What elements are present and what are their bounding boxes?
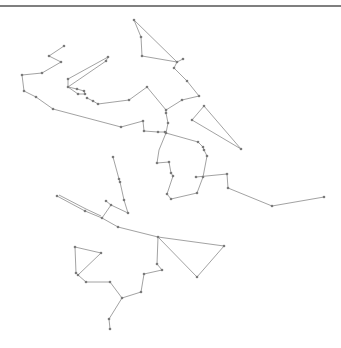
node-point bbox=[74, 246, 77, 249]
node-point bbox=[77, 93, 80, 96]
edges-group bbox=[22, 20, 324, 329]
node-point bbox=[227, 187, 230, 190]
edge-path bbox=[87, 87, 168, 133]
node-point bbox=[52, 108, 55, 111]
node-point bbox=[203, 105, 206, 108]
node-point bbox=[198, 95, 201, 98]
node-point bbox=[196, 192, 199, 195]
node-point bbox=[197, 141, 200, 144]
node-point bbox=[271, 205, 274, 208]
node-point bbox=[107, 56, 110, 59]
node-point bbox=[105, 200, 108, 203]
nodes-group bbox=[21, 19, 326, 331]
node-point bbox=[186, 80, 189, 83]
node-point bbox=[75, 272, 78, 275]
node-point bbox=[182, 58, 185, 61]
edge-path bbox=[134, 20, 177, 62]
node-point bbox=[196, 276, 199, 279]
node-point bbox=[240, 148, 243, 151]
node-point bbox=[140, 291, 143, 294]
node-point bbox=[119, 181, 122, 184]
edge-path bbox=[75, 218, 224, 298]
node-point bbox=[156, 162, 159, 165]
node-point bbox=[77, 274, 80, 277]
edge-path bbox=[166, 62, 199, 110]
node-point bbox=[109, 281, 112, 284]
node-point bbox=[165, 132, 168, 135]
node-point bbox=[35, 96, 38, 99]
edge-path bbox=[68, 57, 108, 87]
node-point bbox=[121, 297, 124, 300]
node-point bbox=[21, 74, 24, 77]
node-point bbox=[85, 281, 88, 284]
node-point bbox=[176, 61, 179, 64]
node-point bbox=[109, 328, 112, 331]
node-point bbox=[141, 55, 144, 58]
node-point bbox=[108, 318, 111, 321]
node-point bbox=[76, 88, 79, 91]
node-point bbox=[143, 273, 146, 276]
node-point bbox=[191, 119, 194, 122]
node-point bbox=[203, 149, 206, 152]
node-point bbox=[117, 226, 120, 229]
node-point bbox=[23, 90, 26, 93]
node-point bbox=[157, 236, 160, 239]
node-point bbox=[156, 263, 159, 266]
node-point bbox=[170, 198, 173, 201]
edge-path bbox=[106, 157, 128, 213]
node-point bbox=[67, 86, 70, 89]
node-point bbox=[84, 210, 87, 213]
node-point bbox=[41, 72, 44, 75]
node-point bbox=[120, 126, 123, 129]
node-point bbox=[165, 112, 168, 115]
node-point bbox=[133, 19, 136, 22]
node-point bbox=[226, 173, 229, 176]
node-point bbox=[206, 155, 209, 158]
node-point bbox=[48, 55, 51, 58]
node-point bbox=[63, 45, 66, 48]
edge-path bbox=[196, 174, 324, 206]
node-point bbox=[168, 161, 171, 164]
node-point bbox=[202, 146, 205, 149]
node-point bbox=[127, 212, 130, 215]
node-point bbox=[67, 78, 70, 81]
node-point bbox=[142, 120, 145, 123]
node-point bbox=[223, 245, 226, 248]
node-point bbox=[157, 131, 160, 134]
node-point bbox=[60, 61, 63, 64]
node-point bbox=[165, 109, 168, 112]
node-point bbox=[105, 60, 108, 63]
node-point bbox=[323, 196, 326, 199]
node-point bbox=[202, 176, 205, 179]
node-point bbox=[146, 86, 149, 89]
edge-path bbox=[109, 298, 122, 329]
node-point bbox=[84, 93, 87, 96]
node-point bbox=[97, 103, 100, 106]
node-point bbox=[161, 269, 164, 272]
node-point bbox=[143, 130, 146, 133]
edge-path bbox=[59, 195, 101, 216]
edge-path bbox=[102, 205, 111, 218]
edge-path bbox=[57, 196, 102, 218]
node-point bbox=[92, 100, 95, 103]
node-point bbox=[181, 99, 184, 102]
edge-path bbox=[192, 106, 241, 149]
node-point bbox=[140, 36, 143, 39]
node-point bbox=[110, 204, 113, 207]
node-point bbox=[118, 178, 121, 181]
node-point bbox=[172, 175, 175, 178]
node-point bbox=[101, 217, 104, 220]
node-point bbox=[195, 176, 198, 179]
path-diagram bbox=[0, 0, 341, 348]
node-point bbox=[167, 122, 170, 125]
node-point bbox=[83, 90, 86, 93]
node-point bbox=[100, 252, 103, 255]
node-point bbox=[56, 195, 59, 198]
node-point bbox=[166, 193, 169, 196]
node-point bbox=[170, 172, 173, 175]
edge-path bbox=[157, 133, 207, 199]
node-point bbox=[123, 199, 126, 202]
node-point bbox=[86, 97, 89, 100]
node-point bbox=[128, 99, 131, 102]
node-point bbox=[173, 67, 176, 70]
